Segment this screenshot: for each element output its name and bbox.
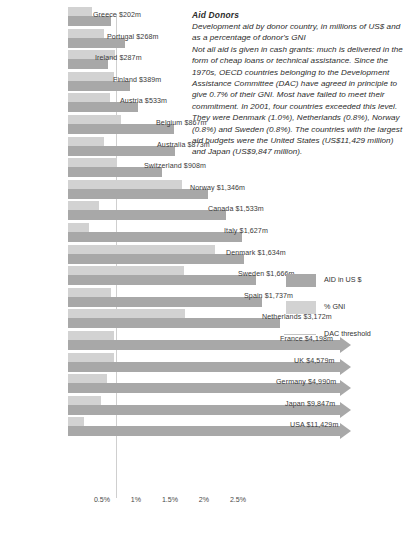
- bar-row: Finland $389m: [0, 71, 411, 93]
- legend-swatch: [286, 301, 316, 314]
- x-axis: 0.5%1%1.5%2%2.5%: [0, 496, 411, 516]
- bar-row: Japan $9,847m: [0, 395, 411, 417]
- bar-aid: [68, 254, 244, 264]
- bar-gni: [68, 396, 101, 405]
- bar-aid: [68, 275, 256, 285]
- bar-label: USA $11,429m: [290, 421, 338, 429]
- bar-gni: [68, 72, 114, 81]
- bar-gni: [68, 266, 184, 275]
- bar-gni: [68, 158, 117, 167]
- bar-label: Germany $4,990m: [276, 378, 336, 386]
- bar-gni: [68, 245, 215, 254]
- bar-row: Portugal $268m: [0, 28, 411, 50]
- bar-label: Italy $1,627m: [224, 227, 268, 235]
- bar-row: Italy $1,627m: [0, 222, 411, 244]
- bar-gni: [68, 137, 104, 146]
- bar-rows: Greece $202mPortugal $268mIreland $287mF…: [0, 6, 411, 438]
- legend-item: DAC threshold: [286, 326, 411, 353]
- bar-label: Austria $533m: [120, 97, 167, 105]
- legend-label: DAC threshold: [324, 329, 371, 338]
- legend-item: AID in US $: [286, 272, 411, 299]
- bar-gni: [68, 374, 107, 383]
- bar-label: UK $4,579m: [294, 357, 334, 365]
- bar-row: Ireland $287m: [0, 49, 411, 71]
- axis-tick: 1.5%: [162, 496, 178, 504]
- bar-gni: [68, 201, 99, 210]
- bar-aid: [68, 189, 208, 199]
- bar-gni: [68, 223, 89, 232]
- bar-label: Ireland $287m: [95, 54, 142, 62]
- bar-row: Belgium $867m: [0, 114, 411, 136]
- axis-tick: 0.5%: [94, 496, 110, 504]
- bar-row: Canada $1,533m: [0, 200, 411, 222]
- bar-row: Norway $1,346m: [0, 179, 411, 201]
- bar-gni: [68, 309, 185, 318]
- bar-label: Belgium $867m: [156, 119, 207, 127]
- legend-line-marker: [284, 334, 316, 335]
- chart-canvas: Aid Donors Development aid by donor coun…: [0, 0, 411, 545]
- bar-row: Greece $202m: [0, 6, 411, 28]
- legend-swatch: [286, 274, 316, 287]
- plot-area: Greece $202mPortugal $268mIreland $287mF…: [0, 6, 411, 492]
- axis-tick: 2.5%: [230, 496, 246, 504]
- bar-gni: [68, 288, 111, 297]
- bar-gni: [68, 7, 92, 16]
- bar-label: Greece $202m: [93, 11, 141, 19]
- bar-gni: [68, 417, 84, 426]
- legend-label: AID in US $: [324, 275, 362, 284]
- axis-tick: 2%: [199, 496, 209, 504]
- bar-row: Denmark $1,634m: [0, 244, 411, 266]
- bar-row: Germany $4,990m: [0, 373, 411, 395]
- legend-label: % GNI: [324, 302, 345, 311]
- chart-legend: AID in US $% GNIDAC threshold: [286, 272, 411, 353]
- legend-item: % GNI: [286, 299, 411, 326]
- bar-row: USA $11,429m: [0, 416, 411, 438]
- bar-label: Switzerland $908m: [144, 162, 206, 170]
- bar-aid: [68, 297, 262, 307]
- bar-gni: [68, 180, 182, 189]
- bar-gni: [68, 115, 121, 124]
- bar-gni: [68, 93, 110, 102]
- bar-row: Australia $873m: [0, 136, 411, 158]
- bar-gni: [68, 331, 114, 340]
- bar-label: Australia $873m: [157, 141, 210, 149]
- bar-row: Switzerland $908m: [0, 157, 411, 179]
- bar-label: Japan $9,847m: [285, 400, 335, 408]
- bar-label: Portugal $268m: [107, 33, 158, 41]
- axis-tick: 1%: [131, 496, 141, 504]
- bar-aid: [68, 318, 280, 328]
- bar-aid: [68, 210, 226, 220]
- bar-label: Finland $389m: [113, 76, 161, 84]
- bar-row: Austria $533m: [0, 92, 411, 114]
- bar-label: Norway $1,346m: [190, 184, 245, 192]
- bar-label: Denmark $1,634m: [226, 249, 286, 257]
- bar-gni: [68, 353, 114, 362]
- bar-gni: [68, 29, 104, 38]
- bar-label: Canada $1,533m: [208, 205, 264, 213]
- bar-aid: [68, 232, 242, 242]
- bar-row: UK $4,579m: [0, 352, 411, 374]
